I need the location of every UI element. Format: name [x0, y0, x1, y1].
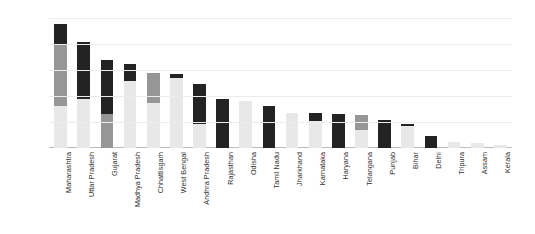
gridline	[49, 122, 512, 123]
bar-segment-low	[355, 130, 368, 148]
bar-madhya-pradesh[interactable]	[124, 64, 137, 148]
x-tick-label: Tamil Nadu	[272, 152, 281, 188]
bar-segment-low	[170, 78, 183, 148]
bar-assam[interactable]	[471, 143, 484, 148]
x-tick-label: Bihar	[411, 152, 420, 169]
gridline	[49, 96, 512, 97]
x-tick-label: Kerala	[503, 152, 512, 173]
bar-tripura[interactable]	[448, 142, 461, 148]
x-tick-label: Andhra Pradesh	[202, 152, 211, 205]
bar-segment-mid	[54, 44, 67, 106]
x-tick-label: Uttar Pradesh	[87, 152, 96, 197]
x-axis-tick-labels: MaharashtraUttar PradeshGujaratMadhya Pr…	[49, 152, 512, 232]
bar-segment-high	[263, 106, 276, 148]
bar-jharkhand[interactable]	[286, 113, 299, 148]
bar-west-bengal[interactable]	[170, 74, 183, 148]
bar-segment-low	[77, 99, 90, 148]
bar-segment-low	[494, 145, 507, 148]
bar-maharashtra[interactable]	[54, 24, 67, 148]
installed-capacity-chart: Installed Capacity (GW) 0510152025 Mahar…	[0, 0, 535, 234]
x-tick-label: Karnataka	[318, 152, 327, 185]
plot-area	[49, 18, 512, 148]
bar-rajasthan[interactable]	[216, 99, 229, 148]
bar-karnataka[interactable]	[309, 113, 322, 148]
bar-kerala[interactable]	[494, 145, 507, 148]
bar-andhra-pradesh[interactable]	[193, 84, 206, 148]
bar-segment-low	[401, 126, 414, 148]
bar-segment-high	[124, 64, 137, 81]
x-tick-label: Odisha	[249, 152, 258, 175]
bar-segment-high	[425, 136, 438, 148]
bar-segment-high	[332, 114, 345, 148]
x-tick-label: Jharkhand	[295, 152, 304, 186]
bar-segment-low	[54, 106, 67, 148]
bar-delhi[interactable]	[425, 136, 438, 148]
bar-gujarat[interactable]	[101, 60, 114, 148]
bar-telangana[interactable]	[355, 115, 368, 148]
gridline	[49, 70, 512, 71]
bar-segment-low	[124, 81, 137, 148]
bar-uttar-pradesh[interactable]	[77, 42, 90, 148]
bar-segment-mid	[101, 114, 114, 148]
bar-segment-low	[448, 142, 461, 148]
bar-segment-mid	[147, 73, 160, 103]
bar-odisha[interactable]	[239, 101, 252, 148]
x-tick-label: Gujarat	[110, 152, 119, 176]
x-tick-label: Delhi	[434, 152, 443, 169]
bar-segment-high	[309, 113, 322, 121]
bar-tamil-nadu[interactable]	[263, 106, 276, 148]
bar-segment-high	[101, 60, 114, 114]
x-tick-label: Tripura	[457, 152, 466, 175]
x-tick-label: Maharashtra	[64, 152, 73, 193]
bar-segment-low	[309, 121, 322, 148]
x-tick-label: Punjab	[388, 152, 397, 175]
x-tick-label: Chhattisgarh	[156, 152, 165, 193]
x-tick-label: West Bengal	[179, 152, 188, 193]
x-tick-label: Assam	[480, 152, 489, 174]
bar-bihar[interactable]	[401, 124, 414, 148]
bar-segment-low	[239, 101, 252, 148]
bar-segment-high	[216, 99, 229, 148]
bar-punjab[interactable]	[378, 120, 391, 148]
bar-group	[49, 18, 512, 148]
bar-segment-low	[147, 103, 160, 148]
bar-segment-low	[286, 113, 299, 148]
bar-segment-low	[193, 124, 206, 148]
x-tick-label: Madhya Pradesh	[133, 152, 142, 207]
x-tick-label: Rajasthan	[226, 152, 235, 185]
bar-segment-high	[193, 84, 206, 124]
y-axis-title: Installed Capacity (GW)	[7, 0, 19, 18]
bar-segment-high	[54, 24, 67, 44]
x-tick-label: Telangana	[365, 152, 374, 186]
bar-segment-high	[378, 120, 391, 148]
bar-haryana[interactable]	[332, 114, 345, 148]
bar-segment-low	[471, 143, 484, 148]
x-tick-label: Haryana	[341, 152, 350, 180]
bar-chhattisgarh[interactable]	[147, 73, 160, 148]
gridline	[49, 18, 512, 19]
gridline	[49, 44, 512, 45]
